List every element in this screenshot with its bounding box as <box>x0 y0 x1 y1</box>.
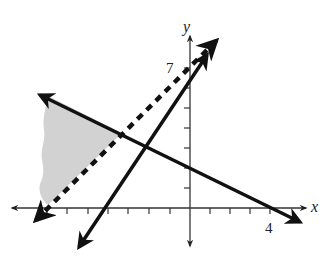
x-tick-label-4: 4 <box>265 220 273 236</box>
shaded-region <box>39 96 122 205</box>
x-axis: x 4 <box>12 198 318 236</box>
x-axis-label: x <box>310 198 318 215</box>
y-axis-label: y <box>181 18 191 36</box>
y-tick-label-7: 7 <box>166 60 174 76</box>
graph: x 4 y 7 <box>0 0 332 259</box>
